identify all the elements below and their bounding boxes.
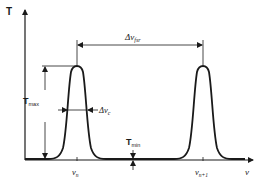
tmin-label: Tmin xyxy=(126,137,140,148)
linewidth-label: Δνc xyxy=(98,105,111,116)
y-axis-label: T xyxy=(6,6,12,17)
peak-n-label: νn xyxy=(72,167,79,178)
x-axis-label: ν xyxy=(245,167,249,177)
tmax-label: Tmax xyxy=(23,96,39,107)
fsr-label: Δνfsr xyxy=(124,32,141,43)
peak-n1-label: νn+1 xyxy=(195,167,208,178)
transmission-diagram: T ν Δνfsr Tmax Δνc Tmin νn νn+1 xyxy=(0,0,259,183)
